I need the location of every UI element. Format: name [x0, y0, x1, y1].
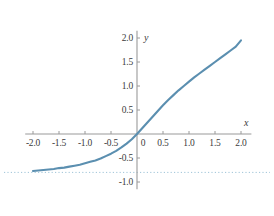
- y-tick-label: 1.5: [122, 57, 133, 67]
- y-tick-label: 0.5: [122, 105, 133, 115]
- x-tick-label: -1.5: [52, 138, 66, 148]
- x-tick-label: 0.5: [157, 138, 168, 148]
- x-tick-label: -1.0: [78, 138, 92, 148]
- y-tick-label: 1.0: [122, 81, 133, 91]
- x-tick-label: 1.0: [183, 138, 194, 148]
- y-tick-label: -0.5: [119, 153, 133, 163]
- chart-plot-area: [0, 0, 274, 216]
- x-tick-label: 1.5: [209, 138, 220, 148]
- y-axis-label: y: [144, 32, 148, 43]
- x-tick-label: 0: [141, 138, 146, 148]
- x-tick-label: -2.0: [26, 138, 40, 148]
- y-tick-label: -1.0: [119, 177, 133, 187]
- x-tick-label: 2.0: [235, 138, 246, 148]
- x-axis-label: x: [244, 117, 248, 128]
- x-tick-label: -0.5: [104, 138, 118, 148]
- chart-figure: -2.0-1.5-1.0-0.500.51.01.52.02.01.51.00.…: [0, 0, 274, 216]
- y-tick-label: 2.0: [122, 33, 133, 43]
